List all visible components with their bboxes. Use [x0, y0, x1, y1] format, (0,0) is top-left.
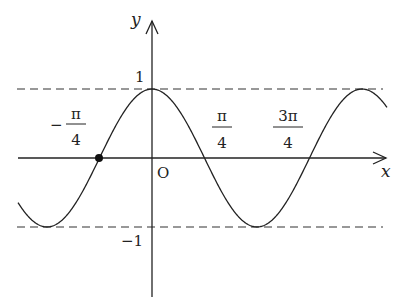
x-tick-3pi-4-num: 3π [278, 107, 298, 125]
y-tick-1: 1 [135, 68, 145, 86]
y-tick-neg1: −1 [121, 232, 143, 250]
x-tick-neg-pi-4-den: 4 [71, 131, 81, 149]
zero-point-marker [95, 154, 103, 162]
x-tick-neg-pi-4-num: π [71, 105, 81, 123]
x-axis-label: x [381, 161, 391, 181]
cosine-graph-figure: y x O 1 −1 − π 4 π 4 3π 4 [0, 0, 407, 308]
x-tick-3pi-4-den: 4 [283, 134, 293, 152]
x-tick-pi-4-num: π [217, 107, 227, 125]
x-tick-pi-4-den: 4 [217, 134, 227, 152]
origin-label: O [157, 164, 169, 182]
y-axis-label: y [130, 9, 141, 29]
x-tick-neg-pi-4-sign: − [50, 116, 63, 134]
